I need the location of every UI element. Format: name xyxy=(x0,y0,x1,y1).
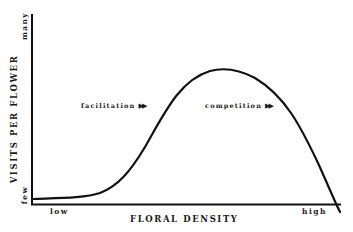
y-tick-many: many xyxy=(20,12,29,40)
y-axis-label: VISITS PER FLOWER xyxy=(9,55,19,184)
double-arrow-right-icon: ▶▶ xyxy=(265,101,272,110)
chart-canvas xyxy=(0,0,353,232)
x-axis-label: FLORAL DENSITY xyxy=(130,214,239,224)
annotation-facilitation: facilitation▶▶ xyxy=(81,101,145,110)
annotation-text: facilitation xyxy=(81,102,136,110)
x-tick-low: low xyxy=(50,207,69,216)
visits-curve xyxy=(33,69,340,212)
annotation-competition: competition▶▶ xyxy=(205,101,272,110)
annotation-text: competition xyxy=(205,102,262,110)
x-tick-high: high xyxy=(302,207,327,216)
double-arrow-right-icon: ▶▶ xyxy=(139,101,146,110)
y-tick-few: few xyxy=(20,186,29,205)
